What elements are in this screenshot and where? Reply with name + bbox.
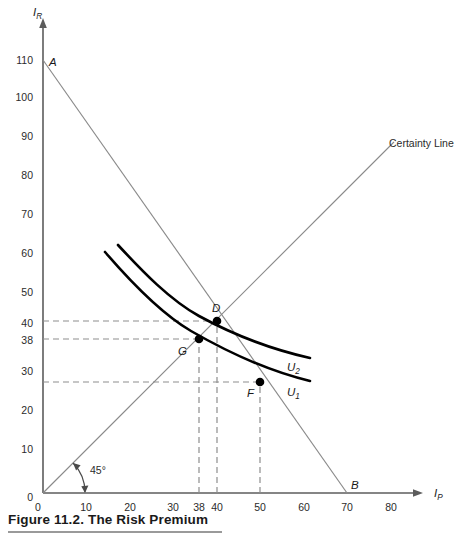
point-label-b: B [351, 479, 359, 491]
data-point-d [213, 317, 222, 326]
curve-label-u2-sub: 2 [294, 367, 300, 376]
curve-label-u1-sub: 1 [295, 392, 300, 401]
x-axis-title-sub: P [437, 493, 443, 502]
x-axis-arrow [413, 489, 423, 497]
y-axis-ticks: 110 100 90 80 70 60 50 40 38 30 20 10 0 [15, 54, 33, 503]
angle-label-45: 45° [90, 464, 106, 476]
data-point-g [195, 335, 204, 344]
point-label-d: D [212, 302, 220, 314]
axes-group [39, 18, 423, 497]
y-tick-label: 30 [21, 365, 33, 377]
y-tick-label: 10 [21, 443, 33, 455]
y-tick-label: 90 [21, 130, 33, 142]
y-tick-label: 38 [21, 334, 33, 346]
y-tick-label: 0 [27, 491, 33, 503]
figure-caption: Figure 11.2. The Risk Premium [8, 512, 448, 527]
y-axis-title-sub: R [36, 12, 42, 21]
y-tick-label: 20 [21, 404, 33, 416]
budget-line-ab [43, 60, 347, 493]
y-tick-label: 110 [16, 54, 33, 66]
figure-caption-block: Figure 11.2. The Risk Premium [8, 512, 448, 533]
y-tick-label: 100 [15, 91, 33, 103]
curve-label-u2: U2 [287, 361, 300, 376]
figure-container: IR IP 110 100 90 80 70 60 50 40 38 30 20… [0, 0, 470, 539]
y-axis-title: IR [33, 6, 42, 21]
y-tick-label: 80 [21, 169, 33, 181]
certainty-line-label: Certainty Line [389, 137, 454, 149]
point-label-g: G [178, 345, 187, 357]
y-tick-label: 70 [21, 208, 33, 220]
y-tick-label: 50 [21, 286, 33, 298]
x-axis-title: IP [434, 487, 443, 502]
data-point-f [256, 378, 265, 387]
risk-premium-diagram: IR IP 110 100 90 80 70 60 50 40 38 30 20… [0, 0, 470, 539]
point-label-a: A [48, 56, 57, 68]
caption-rule [8, 531, 222, 533]
point-label-f: F [247, 387, 255, 399]
y-tick-label: 40 [21, 317, 33, 329]
angle-arrow-upper [73, 463, 81, 470]
angle-annotation-group: 45° [73, 463, 106, 493]
indifference-curve-u1 [105, 252, 310, 381]
y-tick-label: 60 [21, 247, 33, 259]
angle-arrow-lower [81, 486, 88, 493]
curve-label-u1: U1 [287, 386, 300, 401]
